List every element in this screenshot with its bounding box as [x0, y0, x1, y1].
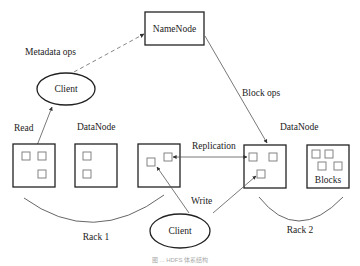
rack1-label: Rack 1	[83, 232, 110, 242]
block-ops-label: Block ops	[242, 88, 281, 98]
rack1-datanode-1	[13, 144, 55, 187]
datanode-label-rack2: DataNode	[280, 122, 319, 132]
replication-label: Replication	[192, 141, 236, 151]
read-label: Read	[14, 123, 34, 133]
client-bottom: Client	[150, 214, 210, 248]
write-label: Write	[191, 196, 212, 206]
rack2-datanode-1	[244, 145, 286, 188]
datanode-label-rack1: DataNode	[77, 122, 116, 132]
client-bottom-label: Client	[168, 226, 192, 236]
read-arrow	[36, 107, 52, 148]
rack1-datanode-3	[138, 144, 180, 187]
namenode: NameNode	[145, 12, 204, 45]
client-upper-label: Client	[54, 84, 78, 94]
rack2-datanode-2: Blocks	[307, 145, 349, 188]
rack2-arc	[259, 197, 343, 221]
write-arrow-rack2	[213, 176, 256, 213]
metadata-ops-label: Metadata ops	[25, 47, 76, 57]
figure-caption: 图 ... HDFS 体系结构	[152, 256, 208, 264]
namenode-label: NameNode	[153, 24, 196, 34]
rack1-arc	[24, 195, 164, 222]
rack2-label: Rack 2	[287, 225, 314, 235]
client-upper: Client	[37, 73, 95, 105]
rack1-datanode-2	[75, 144, 117, 187]
blocks-label: Blocks	[315, 175, 342, 185]
metadata-ops-arrow	[74, 34, 144, 72]
hdfs-architecture-diagram: NameNode Metadata ops Client Read Block …	[0, 0, 360, 266]
